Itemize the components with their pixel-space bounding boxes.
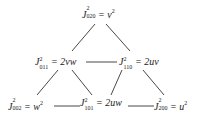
node-J200: J2200 = u2 (154, 97, 187, 113)
edge-J020-J011 (72, 24, 95, 51)
node-J110: J2110 = 2uv (119, 56, 159, 68)
node-J002: J2002 = w2 (8, 97, 43, 113)
node-J101: J2101 = 2uw (80, 97, 122, 109)
edge-J110-J200 (143, 70, 164, 95)
node-J011: J2011 = 2vw (35, 56, 76, 68)
edge-J011-J101 (72, 70, 92, 95)
node-J020: J2020 = v2 (82, 5, 115, 21)
edge-J110-J101 (111, 70, 122, 95)
edge-J011-J002 (37, 70, 58, 95)
edge-J020-J110 (106, 24, 130, 51)
